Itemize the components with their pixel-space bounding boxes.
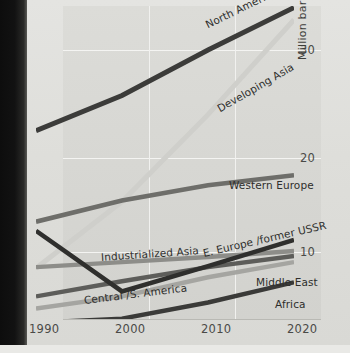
y-tick-10: 10 xyxy=(300,245,315,259)
series-label-middle-east: Middle East xyxy=(256,276,318,288)
gutter-bleed-text xyxy=(3,70,23,130)
x-tick-2010: 2010 xyxy=(201,322,231,336)
series-label-africa: Africa xyxy=(275,298,306,310)
chart-figure: 30 20 10 1990 2000 2010 2020 Million bar… xyxy=(0,0,350,353)
x-tick-2020: 2020 xyxy=(287,322,317,336)
x-axis-line xyxy=(63,319,321,320)
series-lines xyxy=(36,6,294,319)
x-tick-1990: 1990 xyxy=(29,322,59,336)
series-line-north-america xyxy=(36,8,294,131)
series-label-western-europe: Western Europe xyxy=(229,179,314,191)
x-tick-2000: 2000 xyxy=(115,322,145,336)
page-gutter-shadow xyxy=(0,0,27,345)
y-axis-label: Million barrels per day xyxy=(296,0,309,60)
series-line-developing-asia xyxy=(36,20,294,268)
y-tick-20: 20 xyxy=(300,151,315,165)
